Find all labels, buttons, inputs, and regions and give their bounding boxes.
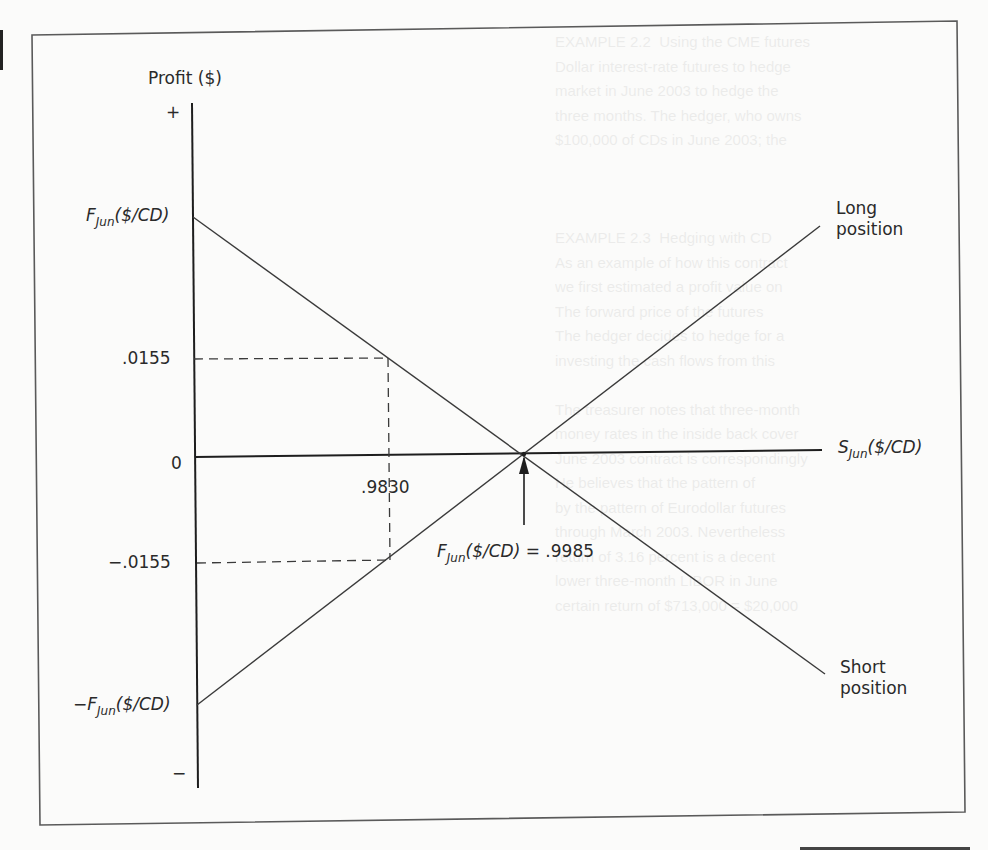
- y-tick-neg-f-jun: −FJun($/CD): [73, 696, 171, 713]
- long-label-line1: Long: [836, 198, 903, 219]
- y-tick-f-jun: FJun($/CD): [86, 207, 169, 224]
- long-position-label: Long position: [836, 198, 903, 240]
- intersection-point: [522, 452, 526, 456]
- f-symbol: F: [87, 694, 97, 714]
- long-label-line2: position: [836, 219, 903, 240]
- neg-prefix: −: [73, 694, 87, 714]
- f-symbol: F: [437, 541, 447, 561]
- y-tick-zero: 0: [171, 455, 182, 472]
- dashed-upper-ref: [194, 358, 388, 359]
- s-unit: ($/CD): [868, 437, 923, 457]
- f-unit: ($/CD): [466, 541, 521, 561]
- dashed-vertical-ref: [388, 358, 390, 560]
- s-subscript: Jun: [849, 447, 868, 461]
- x-axis-title: SJun($/CD): [838, 439, 922, 456]
- x-axis: [195, 450, 822, 457]
- y-tick-neg: −.0155: [108, 554, 171, 571]
- y-plus-marker: +: [166, 104, 180, 121]
- annotation-value: = .9985: [520, 541, 594, 561]
- annotation-futures-price: FJun($/CD) = .9985: [437, 543, 594, 560]
- f-unit: ($/CD): [115, 205, 170, 225]
- payoff-chart: [0, 0, 988, 850]
- y-minus-marker: −: [172, 765, 186, 782]
- y-axis: [192, 103, 198, 788]
- f-subscript: Jun: [447, 551, 466, 565]
- f-unit: ($/CD): [116, 694, 171, 714]
- short-position-line: [193, 217, 825, 674]
- y-tick-pos: .0155: [122, 350, 171, 367]
- short-label-line1: Short: [840, 657, 907, 678]
- short-position-label: Short position: [840, 657, 907, 699]
- dashed-lower-ref: [197, 560, 389, 563]
- f-subscript: Jun: [97, 704, 116, 718]
- short-label-line2: position: [840, 678, 907, 699]
- long-position-line: [197, 226, 820, 705]
- chart-frame: [32, 21, 965, 825]
- f-subscript: Jun: [96, 215, 115, 229]
- f-symbol: F: [86, 205, 96, 225]
- s-symbol: S: [838, 437, 849, 457]
- y-axis-title: Profit ($): [148, 70, 222, 87]
- x-mark-9830: .9830: [361, 479, 410, 496]
